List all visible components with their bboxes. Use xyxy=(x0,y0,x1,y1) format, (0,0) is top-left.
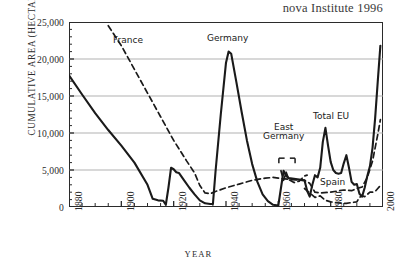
x-tick-label: 1980 xyxy=(333,191,344,211)
x-tick-label: 1880 xyxy=(73,191,84,211)
x-axis-title: YEAR xyxy=(0,249,397,259)
x-tick-label: 1900 xyxy=(125,191,136,211)
x-axis-tick-labels: 1880 1900 1920 1940 1960 1980 2000 xyxy=(0,0,397,266)
x-tick-label: 1920 xyxy=(177,191,188,211)
x-tick-label: 2000 xyxy=(385,191,396,211)
x-tick-label: 1960 xyxy=(281,191,292,211)
x-tick-label: 1940 xyxy=(229,191,240,211)
chart-figure: nova Institute 1996 25,000 20,000 15,000… xyxy=(0,0,397,266)
